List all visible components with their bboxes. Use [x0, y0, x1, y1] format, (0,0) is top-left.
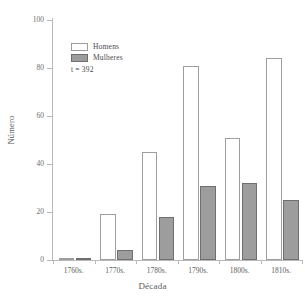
- bar-homens: [183, 66, 199, 260]
- legend-swatch-homens-icon: [71, 43, 88, 51]
- y-tick: [47, 116, 52, 117]
- y-tick-label: 100: [18, 16, 44, 24]
- bar-mulheres: [283, 200, 299, 260]
- legend-swatch-mulheres-icon: [71, 54, 88, 62]
- x-axis-title: Década: [0, 281, 305, 291]
- bar-chart: Número 020406080100 1760s.1770s.1780s.17…: [0, 0, 305, 296]
- y-tick: [47, 260, 52, 261]
- y-tick: [47, 212, 52, 213]
- bar-homens: [266, 58, 282, 260]
- legend: Homens Mulheres t = 392: [71, 42, 123, 74]
- bar-homens: [59, 258, 75, 260]
- y-tick-label: 60: [18, 112, 44, 120]
- x-tick-label: 1800s.: [219, 266, 261, 275]
- legend-item-mulheres: Mulheres: [71, 53, 123, 62]
- legend-item-homens: Homens: [71, 42, 123, 51]
- legend-label-mulheres: Mulheres: [93, 53, 123, 62]
- y-tick: [47, 20, 52, 21]
- bar-mulheres: [242, 183, 258, 260]
- total-annotation: t = 392: [71, 65, 123, 74]
- bar-homens: [225, 138, 241, 260]
- bar-group: [225, 20, 258, 260]
- y-tick-label: 0: [18, 256, 44, 264]
- bar-group: [266, 20, 299, 260]
- x-tick: [178, 260, 179, 264]
- bar-homens: [142, 152, 158, 260]
- bar-mulheres: [117, 250, 133, 260]
- bar-mulheres: [76, 258, 92, 260]
- y-tick-label: 20: [18, 208, 44, 216]
- x-tick-label: 1760s.: [53, 266, 95, 275]
- x-tick: [136, 260, 137, 264]
- legend-label-homens: Homens: [93, 42, 119, 51]
- bar-homens: [100, 214, 116, 260]
- x-tick: [302, 260, 303, 264]
- x-tick-label: 1780s.: [136, 266, 178, 275]
- x-tick-label: 1770s.: [95, 266, 137, 275]
- x-tick: [219, 260, 220, 264]
- bar-group: [142, 20, 175, 260]
- bar-mulheres: [200, 186, 216, 260]
- bar-group: [183, 20, 216, 260]
- x-tick: [53, 260, 54, 264]
- x-tick: [95, 260, 96, 264]
- x-tick: [261, 260, 262, 264]
- y-tick-label: 80: [18, 64, 44, 72]
- x-tick-label: 1790s.: [178, 266, 220, 275]
- y-tick-label: 40: [18, 160, 44, 168]
- y-tick: [47, 68, 52, 69]
- bar-mulheres: [159, 217, 175, 260]
- y-axis-title: Número: [6, 100, 16, 160]
- y-tick: [47, 164, 52, 165]
- x-tick-label: 1810s.: [261, 266, 303, 275]
